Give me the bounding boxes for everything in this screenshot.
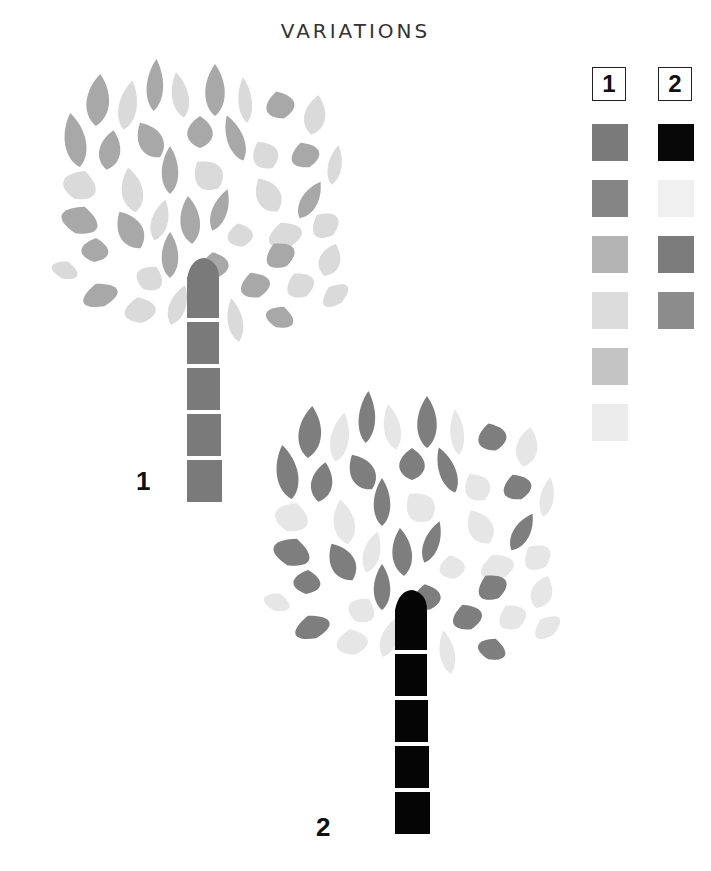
leaf-shape [118, 166, 146, 214]
leaf-shape [374, 478, 391, 526]
leaf-shape [330, 498, 358, 546]
leaf-shape [224, 297, 246, 343]
tree-illustrations [0, 0, 711, 871]
leaf-shape [145, 59, 164, 112]
leaf-shape [186, 153, 230, 197]
leaf-shape [168, 71, 192, 119]
leaf-shape [398, 485, 442, 529]
leaf-shape [122, 294, 158, 325]
leaf-shape [458, 468, 495, 507]
leaf-shape [79, 278, 121, 313]
leaf-shape [281, 267, 319, 304]
trunk-segment [187, 414, 221, 456]
trunk-segment [187, 368, 220, 410]
leaf-shape [162, 232, 179, 278]
trunk-segment [187, 460, 222, 502]
leaf-shape [291, 610, 333, 645]
leaf-shape [357, 391, 376, 444]
leaf-shape [263, 88, 298, 122]
leaf-shape [271, 497, 313, 537]
leaf-shape [81, 237, 110, 263]
leaf-shape [308, 460, 336, 503]
leaf-shape [437, 553, 466, 581]
leaf-shape [297, 405, 324, 459]
leaf-shape [327, 411, 353, 463]
trunk-segment [395, 654, 427, 696]
leaf-shape [325, 144, 345, 186]
leaf-shape [109, 206, 151, 254]
tree-label-2: 2 [316, 812, 330, 843]
leaf-shape [205, 64, 225, 116]
trunk-segment [395, 746, 429, 788]
leaf-shape [460, 505, 500, 550]
leaf-shape [314, 240, 345, 279]
leaf-shape [49, 257, 81, 283]
trunk-top [187, 258, 219, 318]
leaf-shape [263, 302, 297, 332]
leaf-shape [187, 116, 213, 148]
leaf-shape [162, 146, 179, 194]
trunk-segment [395, 792, 430, 834]
leaf-shape [321, 538, 363, 586]
leaf-shape [261, 589, 293, 615]
leaf-shape [58, 200, 103, 239]
leaf-shape [178, 195, 202, 245]
leaf-shape [526, 572, 557, 611]
leaf-shape [225, 221, 254, 249]
leaf-shape [342, 449, 383, 496]
leaf-shape [475, 420, 510, 454]
leaf-shape [334, 626, 370, 657]
leaf-shape [417, 519, 446, 565]
leaf-shape [301, 93, 329, 136]
leaf-shape [246, 136, 283, 175]
leaf-shape [493, 599, 531, 636]
leaf-shape [475, 634, 509, 664]
leaf-shape [499, 470, 535, 504]
leaf-shape [436, 629, 458, 675]
leaf-shape [130, 117, 171, 164]
leaf-shape [248, 173, 288, 218]
leaf-shape [317, 278, 353, 313]
trunk-segment [187, 322, 219, 364]
leaf-shape [448, 408, 465, 455]
leaf-shape [293, 569, 322, 595]
leaf-shape [399, 448, 425, 480]
leaf-shape [272, 443, 302, 501]
leaf-shape [380, 403, 404, 451]
leaf-shape [115, 79, 141, 131]
leaf-shape [236, 76, 253, 123]
leaf-shape [374, 564, 391, 610]
trunk-segment [395, 700, 428, 742]
leaf-shape [537, 476, 557, 518]
leaf-shape [417, 396, 437, 448]
leaf-shape [270, 532, 315, 571]
leaf-shape [287, 138, 323, 172]
leaf-shape [513, 425, 541, 468]
leaf-shape [529, 610, 565, 645]
trunk-top [395, 590, 427, 650]
leaf-shape [59, 165, 101, 205]
tree-label-1: 1 [136, 466, 150, 497]
leaf-shape [236, 268, 273, 303]
leaf-shape [448, 600, 485, 635]
leaf-shape [60, 111, 90, 169]
leaf-shape [390, 527, 414, 577]
leaf-shape [205, 187, 234, 233]
leaf-shape [96, 128, 124, 171]
leaf-shape [85, 73, 112, 127]
tree-variation-2 [261, 391, 565, 834]
